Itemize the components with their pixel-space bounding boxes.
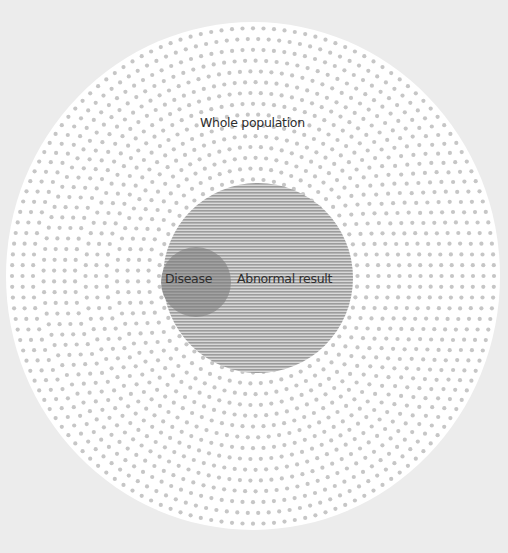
whole-population-label: Whole population [200, 117, 305, 130]
abnormal-result-label: Abnormal result [237, 273, 332, 286]
disease-label: Disease [165, 273, 212, 286]
